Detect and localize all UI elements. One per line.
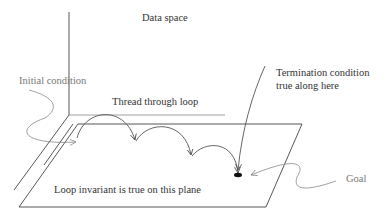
loop-invariant-diagram: Data space Initial condition Thread thro… <box>0 0 387 218</box>
invariant-label: Loop invariant is true on this plane <box>54 184 201 195</box>
thread-arc-1 <box>77 115 135 140</box>
thread-label: Thread through loop <box>112 96 198 107</box>
plane-inner-edge <box>44 124 73 165</box>
termination-label-line1: Termination condition <box>276 67 370 78</box>
goal-pointer <box>251 164 336 188</box>
thread-arc-3 <box>192 146 238 173</box>
thread-arc-2 <box>136 127 191 155</box>
termination-label-line2: true along here <box>276 80 339 91</box>
goal-label: Goal <box>346 173 366 184</box>
initial-condition-label: Initial condition <box>19 75 87 86</box>
data-space-label: Data space <box>142 12 188 23</box>
goal-dot <box>234 173 242 177</box>
depth-axis <box>14 115 69 190</box>
termination-pointer <box>238 66 265 170</box>
